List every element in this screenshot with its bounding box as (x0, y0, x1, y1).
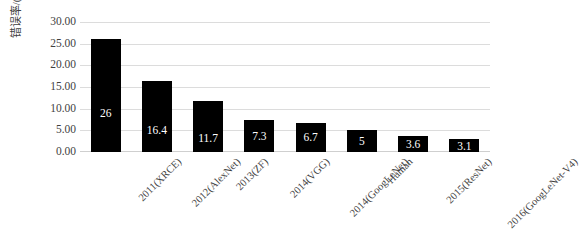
y-axis-title: 错误率/(%) (8, 0, 24, 62)
y-axis-tick-label: 10.00 (28, 103, 76, 115)
bar[interactable]: 11.7 (193, 101, 223, 152)
bar-value-label: 26 (91, 107, 121, 119)
bar-value-label: 16.4 (142, 124, 172, 136)
y-axis-tick-label: 15.00 (28, 81, 76, 93)
bar-value-label: 11.7 (193, 132, 223, 144)
bar-value-label: 3.6 (398, 138, 428, 150)
bar-value-label: 3.1 (449, 140, 479, 152)
x-axis-tick-label: 2011(XRCE) (136, 156, 184, 204)
bar-value-label: 5 (347, 135, 377, 147)
x-axis-tick-label: 2016(GoogLeNet-V4) (506, 156, 581, 231)
bar[interactable]: 26 (91, 39, 121, 152)
y-axis-tick-label: 5.00 (28, 125, 76, 137)
x-axis-tick-label: 2015(ResNet) (444, 156, 494, 206)
y-axis-tick-label: 20.00 (28, 60, 76, 72)
gridline (80, 44, 490, 45)
x-axis-tick-labels: 2011(XRCE)2012(AlexNet)2013(ZF)2014(VGG)… (80, 152, 490, 252)
bar[interactable]: 6.7 (296, 123, 326, 152)
bar[interactable]: 3.1 (449, 139, 479, 152)
x-axis-tick-label: 2014(VGG) (288, 156, 332, 200)
y-axis-tick-labels: 0.005.0010.0015.0020.0025.0030.00 (28, 0, 76, 252)
gridline (80, 22, 490, 23)
bar[interactable]: 16.4 (142, 81, 172, 152)
plot-area: 2616.411.77.36.753.63.1 (80, 22, 490, 152)
y-axis-tick-label: 30.00 (28, 16, 76, 28)
bar[interactable]: 7.3 (244, 120, 274, 152)
bar-value-label: 7.3 (244, 130, 274, 142)
bar[interactable]: 3.6 (398, 136, 428, 152)
y-axis-tick-label: 25.00 (28, 38, 76, 50)
gridline (80, 65, 490, 66)
y-axis-tick-label: 0.00 (28, 146, 76, 158)
bar-value-label: 6.7 (296, 131, 326, 143)
bar[interactable]: 5 (347, 130, 377, 152)
